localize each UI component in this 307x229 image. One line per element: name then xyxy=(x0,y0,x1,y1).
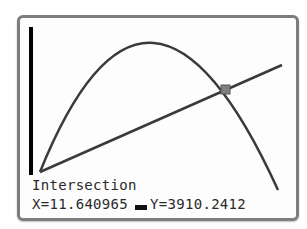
coordinate-readout: X=11.640965Y=3910.2412 xyxy=(32,196,246,212)
x-label: X= xyxy=(32,196,49,212)
x-value: 11.640965 xyxy=(49,196,128,212)
graph-plot xyxy=(0,0,307,229)
y-value: 3910.2412 xyxy=(168,196,247,212)
linear-curve xyxy=(40,65,282,172)
intersection-cursor-icon xyxy=(221,85,230,94)
cursor-mark-icon xyxy=(135,205,147,210)
parabola-curve xyxy=(40,43,278,190)
y-label: Y= xyxy=(150,196,167,212)
status-label: Intersection xyxy=(32,177,137,193)
